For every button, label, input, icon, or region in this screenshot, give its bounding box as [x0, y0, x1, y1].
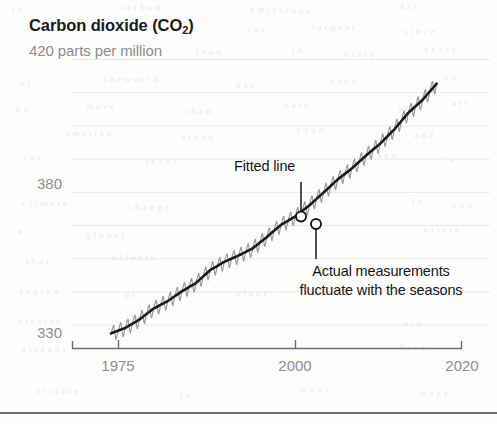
chart-title: Carbon dioxide (CO2)	[29, 16, 194, 35]
callout-actual	[311, 219, 321, 259]
x-tick-label-1975: 1975	[83, 357, 153, 374]
y-tick-label-330: 330	[16, 324, 62, 341]
chart-title-subscript: 2	[182, 24, 188, 36]
fitted-marker-circle	[296, 212, 306, 222]
chart-subtitle: 420 parts per million	[29, 42, 162, 59]
chart-title-paren: )	[188, 16, 193, 34]
plot-area	[0, 0, 497, 424]
annotation-actual-line1: Actual measurements	[312, 263, 449, 279]
x-tick-label-2000: 2000	[260, 357, 330, 374]
y-tick-label-380: 380	[16, 175, 62, 192]
chart-figure: i nc a r b o ne m i s s i o n sa r et h …	[0, 0, 497, 424]
chart-title-text: Carbon dioxide (CO	[29, 16, 182, 34]
annotation-actual-line2: fluctuate with the seasons	[300, 282, 463, 298]
actual-marker-circle	[311, 219, 321, 229]
x-tick-label-2020: 2020	[427, 357, 497, 374]
annotation-actual-measurements: Actual measurements fluctuate with the s…	[270, 262, 492, 300]
annotation-fitted-line: Fitted line	[234, 158, 295, 174]
measurement-series-line	[111, 81, 437, 339]
x-axis	[72, 340, 462, 349]
footer-divider	[0, 412, 497, 414]
